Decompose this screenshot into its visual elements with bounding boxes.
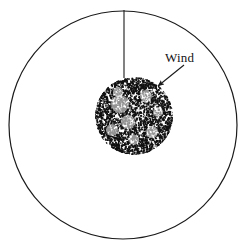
- wind-diagram: Wind: [0, 0, 246, 251]
- figure-canvas: Wind: [0, 0, 246, 251]
- wind-label: Wind: [165, 50, 194, 65]
